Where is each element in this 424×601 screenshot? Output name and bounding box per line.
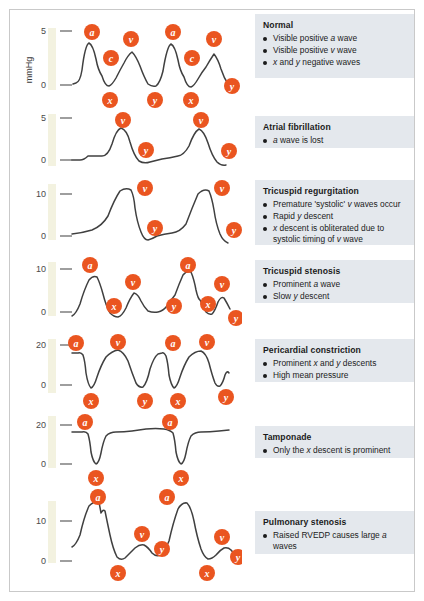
marker-x-2: x bbox=[200, 296, 216, 312]
bullet-dot bbox=[263, 227, 267, 231]
bullet-dot bbox=[263, 215, 267, 219]
svg-text:y: y bbox=[229, 81, 235, 92]
svg-text:x: x bbox=[111, 301, 117, 312]
marker-y: y bbox=[147, 220, 163, 236]
marker-x-2: x bbox=[199, 565, 215, 581]
panel-heading: Pulmonary stenosis bbox=[263, 517, 406, 528]
bullet-dot bbox=[263, 37, 267, 41]
svg-text:y: y bbox=[235, 552, 241, 563]
y-tick-label-top: 10 bbox=[36, 516, 46, 526]
waveform-trace bbox=[72, 429, 229, 465]
waveform-trace bbox=[73, 43, 228, 87]
panel-bullets: Prominent x and y descents High mean pre… bbox=[263, 358, 406, 381]
svg-text:a: a bbox=[74, 338, 79, 349]
marker-y: y bbox=[147, 92, 163, 108]
y-tick-label-bottom: 0 bbox=[41, 307, 46, 317]
marker-c: c bbox=[103, 50, 119, 66]
bullet-item: x descent is obliterated due to systolic… bbox=[263, 223, 406, 245]
info-box-tricuspid-regurgitation: Tricuspid regurgitation Premature 'systo… bbox=[255, 180, 414, 245]
y-tick-label-bottom: 0 bbox=[41, 556, 46, 566]
svg-text:v: v bbox=[220, 183, 225, 194]
bullet-dot bbox=[263, 534, 267, 538]
marker-v-2: v bbox=[214, 529, 230, 545]
bullet-item: Prominent x and y descents bbox=[263, 358, 406, 369]
marker-y-2: y bbox=[224, 78, 240, 94]
bullet-dot bbox=[263, 449, 267, 453]
marker-a: a bbox=[77, 414, 93, 430]
svg-text:x: x bbox=[88, 396, 94, 407]
y-tick-label-bottom: 0 bbox=[41, 155, 46, 165]
marker-v-2: v bbox=[206, 31, 222, 47]
gradient-bar bbox=[48, 184, 56, 240]
svg-text:y: y bbox=[159, 544, 165, 555]
svg-text:a: a bbox=[171, 27, 176, 38]
marker-group: a c x v y a c x v y bbox=[84, 24, 240, 108]
waveform-plot-tricuspid-regurgitation: 10 0 v y v y bbox=[10, 178, 242, 256]
info-box-normal: Normal Visible positive a wave Visible p… bbox=[255, 14, 414, 78]
bullet-dot bbox=[263, 374, 267, 378]
info-box-tricuspid-stenosis: Tricuspid stenosis Prominent a wave Slow… bbox=[255, 260, 414, 303]
waveform-plot-pulmonary-stenosis: 10 0 a x v y a x v y bbox=[10, 487, 242, 587]
svg-text:y: y bbox=[152, 223, 158, 234]
svg-text:x: x bbox=[107, 95, 113, 106]
marker-v: v bbox=[115, 112, 131, 128]
waveform-plot-normal: mmHg 5 0 a c x v y a c x v y bbox=[10, 14, 242, 108]
waveform-trace bbox=[72, 350, 229, 388]
marker-x-2: x bbox=[170, 393, 186, 409]
marker-x-2: x bbox=[173, 470, 189, 486]
panel-bullets: Premature 'systolic' v waves occur Rapid… bbox=[263, 199, 406, 245]
panel-pericardial-constriction: 20 0 a x v y a x v y Pericardial constri… bbox=[10, 333, 414, 413]
waveform-plot-pericardial-constriction: 20 0 a x v y a x v y bbox=[10, 333, 242, 413]
marker-a: a bbox=[84, 24, 100, 40]
svg-text:v: v bbox=[205, 337, 210, 348]
bullet-dot bbox=[263, 203, 267, 207]
svg-text:v: v bbox=[220, 532, 225, 543]
marker-y: y bbox=[154, 541, 170, 557]
marker-y-2: y bbox=[218, 389, 234, 405]
waveform-trace bbox=[72, 189, 228, 243]
svg-text:c: c bbox=[190, 53, 195, 64]
marker-x: x bbox=[83, 393, 99, 409]
info-box-tamponade: Tamponade Only the x descent is prominen… bbox=[255, 426, 414, 458]
svg-text:x: x bbox=[178, 473, 184, 484]
panel-pulmonary-stenosis: 10 0 a x v y a x v y Pulmonary stenosis … bbox=[10, 487, 414, 587]
bullet-item: Prominent a wave bbox=[263, 279, 406, 290]
panel-normal: mmHg 5 0 a c x v y a c x v y bbox=[10, 14, 414, 108]
marker-x-2: x bbox=[183, 92, 199, 108]
svg-text:x: x bbox=[175, 396, 181, 407]
jvp-waveform-figure: mmHg 5 0 a c x v y a c x v y bbox=[0, 0, 424, 601]
panel-heading: Tricuspid stenosis bbox=[263, 266, 406, 277]
svg-text:x: x bbox=[204, 568, 210, 579]
y-tick-label-top: 10 bbox=[36, 189, 46, 199]
bullet-dot bbox=[263, 295, 267, 299]
marker-y: y bbox=[137, 393, 153, 409]
waveform-plot-tamponade: 20 0 a x a x bbox=[10, 408, 242, 486]
marker-y-2: y bbox=[226, 222, 242, 238]
bullet-item: a wave is lost bbox=[263, 135, 406, 146]
y-tick-label-bottom: 0 bbox=[41, 459, 46, 469]
svg-text:y: y bbox=[233, 313, 239, 324]
svg-text:v: v bbox=[116, 337, 121, 348]
marker-v-2: v bbox=[193, 112, 209, 128]
marker-group: a x v y a x v y bbox=[90, 489, 242, 581]
panel-heading: Pericardial constriction bbox=[263, 345, 406, 356]
marker-c-2: c bbox=[184, 50, 200, 66]
bullet-item: Visible positive a wave bbox=[263, 33, 406, 44]
gradient-bar bbox=[48, 416, 56, 468]
svg-text:v: v bbox=[121, 115, 126, 126]
bullet-dot bbox=[263, 283, 267, 287]
svg-text:y: y bbox=[171, 301, 177, 312]
panel-bullets: Raised RVEDP causes large a waves bbox=[263, 530, 406, 552]
marker-group: v y v y bbox=[137, 180, 242, 238]
svg-text:v: v bbox=[143, 183, 148, 194]
svg-text:v: v bbox=[129, 34, 134, 45]
svg-text:a: a bbox=[168, 417, 173, 428]
svg-text:v: v bbox=[212, 34, 217, 45]
y-tick-label-bottom: 0 bbox=[41, 231, 46, 241]
marker-v: v bbox=[110, 334, 126, 350]
panel-bullets: a wave is lost bbox=[263, 135, 406, 146]
marker-y: y bbox=[138, 142, 154, 158]
bullet-dot bbox=[263, 362, 267, 366]
marker-group: a x v y a x v y bbox=[68, 334, 234, 409]
y-tick-label-top: 20 bbox=[36, 340, 46, 350]
